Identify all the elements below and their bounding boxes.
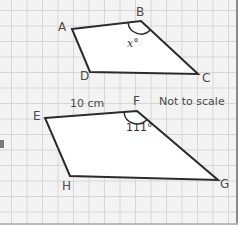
side-label-ef: 10 cm — [70, 98, 104, 110]
angle-label-111: 111° — [126, 122, 153, 134]
vertex-label-f: F — [133, 95, 140, 107]
vertex-label-h: H — [62, 180, 71, 192]
vertex-label-e: E — [33, 110, 41, 122]
cropped-text-fragment — [0, 140, 4, 148]
vertex-label-d: D — [80, 70, 89, 82]
vertex-label-g: G — [220, 178, 229, 190]
graph-paper-canvas: A B C D x° E F G H 10 cm 111° Not to sca… — [0, 0, 238, 225]
vertex-label-c: C — [202, 72, 210, 84]
vertex-label-b: B — [136, 6, 144, 18]
bottom-border — [0, 223, 238, 225]
right-border — [236, 0, 238, 225]
vertex-label-a: A — [58, 21, 66, 33]
not-to-scale-note: Not to scale — [159, 96, 225, 108]
angle-label-x: x° — [127, 38, 139, 50]
